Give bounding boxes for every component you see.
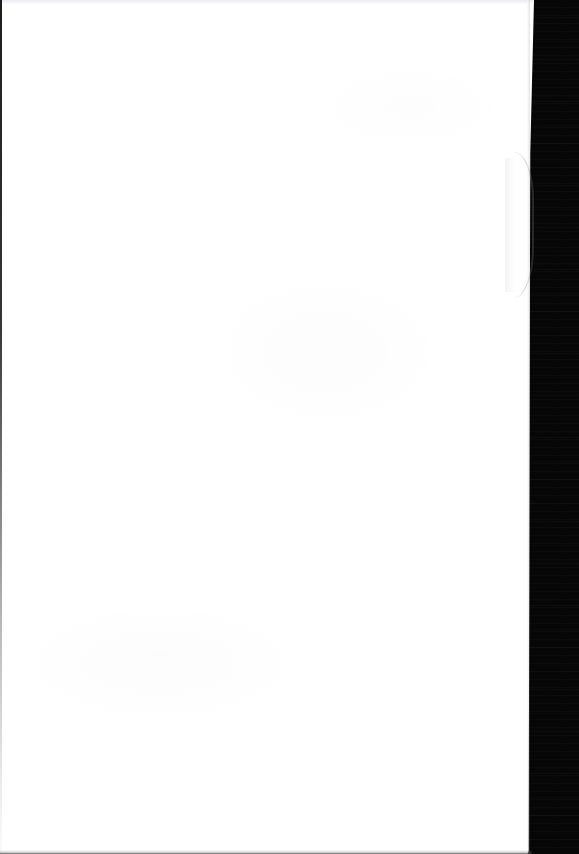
backdrop-noise-streaks (528, 0, 579, 854)
page-sheet[interactable] (0, 0, 534, 854)
page-top-edge (0, 0, 534, 5)
page-right-seam (527, 0, 530, 854)
page-content-area[interactable] (3, 6, 523, 848)
paper-texture (3, 6, 523, 848)
screenshot-root: Blank Page (0, 0, 579, 854)
page-left-edge (0, 0, 2, 854)
page-content-text (3, 6, 4, 7)
page-bottom-edge (0, 850, 532, 854)
